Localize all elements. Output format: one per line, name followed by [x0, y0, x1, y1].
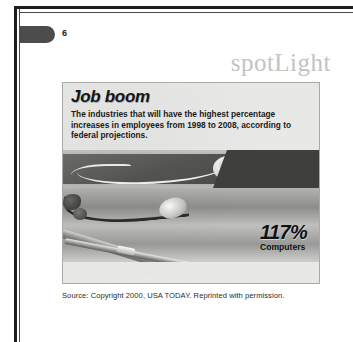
- page-root: 6 spotLight Job boom The industries that…: [0, 0, 353, 342]
- callout-label-computers: Computers: [260, 242, 307, 252]
- page-rule-top: [14, 6, 353, 9]
- page-rule-top-hairline: [19, 12, 353, 13]
- callout-wedge-computers: [213, 150, 319, 188]
- stethoscope-earpiece-2: [73, 208, 87, 220]
- callout-value-computers: 117%: [260, 223, 307, 242]
- infographic-panel: Job boom The industries that will have t…: [62, 82, 320, 284]
- page-rule-left: [14, 6, 17, 342]
- computer-mouse-photo: [63, 150, 319, 188]
- page-rule-left-hairline: [19, 6, 20, 342]
- mouse-cable-tail: [71, 164, 131, 182]
- page-number: 6: [62, 28, 67, 38]
- tool-shaft: [64, 238, 212, 262]
- infographic-source-credit: Source: Copyright 2000, USA TODAY. Repri…: [62, 291, 284, 300]
- infographic-subhead: The industries that will have the highes…: [71, 109, 297, 141]
- tool-head: [161, 228, 190, 255]
- infographic-headline: Job boom: [71, 87, 150, 107]
- callout-computers: 117% Computers: [260, 223, 307, 252]
- page-number-tab: [20, 26, 55, 43]
- section-wordmark: spotLight: [231, 50, 331, 75]
- infographic-photo-collage: 117% Computers 67% Health services 57% R…: [63, 150, 319, 262]
